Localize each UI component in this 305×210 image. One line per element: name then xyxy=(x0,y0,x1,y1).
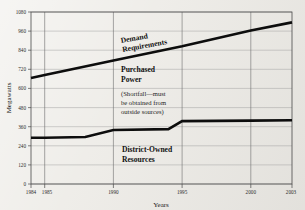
purchased-power-line1: Purchased xyxy=(121,65,156,74)
y-tick-label: 840 xyxy=(18,47,26,53)
y-tick-label: 960 xyxy=(18,28,26,34)
district-owned-line1: District-Owned xyxy=(122,145,173,154)
x-axis-ticks xyxy=(31,184,292,188)
x-tick-label: 1984 xyxy=(26,189,37,195)
shortfall-line3: outside sources) xyxy=(121,108,164,116)
x-tick-label: 2000 xyxy=(246,189,257,195)
x-axis-title: Years xyxy=(153,201,169,209)
y-axis-ticks xyxy=(28,12,31,184)
y-tick-label: 1080 xyxy=(16,9,27,15)
shortfall-line1: (Shortfall—must xyxy=(121,90,166,98)
y-tick-label: 240 xyxy=(18,143,26,149)
district-owned-line2: Resources xyxy=(122,155,155,164)
y-tick-label: 120 xyxy=(18,162,26,168)
y-tick-label: 720 xyxy=(18,66,26,72)
x-axis-tick-labels: 1984 1985 1990 1995 2000 2003 xyxy=(26,189,297,195)
y-axis-tick-labels: 1080 960 840 720 600 480 360 240 120 0 xyxy=(16,9,27,187)
y-tick-label: 480 xyxy=(18,105,26,111)
y-tick-label: 0 xyxy=(23,181,26,187)
y-tick-label: 360 xyxy=(18,124,26,130)
chart-screenshot: 1080 960 840 720 600 480 360 240 120 0 1… xyxy=(0,0,305,210)
annotation-shortfall-note: (Shortfall—must be obtained from outside… xyxy=(121,90,167,116)
x-tick-label: 1995 xyxy=(177,189,188,195)
annotation-district-owned-resources: District-Owned Resources xyxy=(122,145,173,164)
x-tick-label: 2003 xyxy=(286,189,297,195)
series-district-owned-resources xyxy=(31,120,292,138)
line-chart: 1080 960 840 720 600 480 360 240 120 0 1… xyxy=(0,0,305,210)
x-tick-label: 1985 xyxy=(42,189,53,195)
y-tick-label: 600 xyxy=(18,85,26,91)
y-axis-title: Megawatts xyxy=(5,82,13,113)
shortfall-line2: be obtained from xyxy=(121,99,167,106)
purchased-power-line2: Power xyxy=(121,75,142,84)
annotation-purchased-power: Purchased Power xyxy=(121,65,156,84)
x-tick-label: 1990 xyxy=(108,189,119,195)
